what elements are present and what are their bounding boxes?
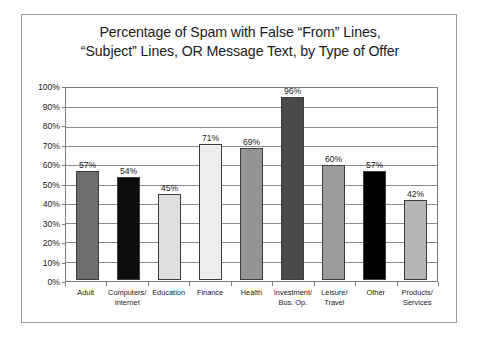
y-axis-tick-mark <box>62 126 65 127</box>
y-axis-tick-label: 30% <box>43 219 60 229</box>
x-axis-tick-mark <box>438 282 439 286</box>
bar[interactable]: 57% <box>76 171 99 280</box>
y-axis-tick-mark <box>62 263 65 264</box>
y-axis-tick-mark <box>62 146 65 147</box>
x-axis-category-label-line-1: Health <box>241 288 262 297</box>
x-axis-category-label: Finance <box>189 288 230 307</box>
x-axis-category-label-line-2: Travel <box>314 298 355 308</box>
x-axis-category-label-line-1: Other <box>367 288 385 297</box>
x-axis-category-label-line-2: Services <box>397 298 438 308</box>
x-axis-category-label-line-1: Computers/ <box>108 288 146 297</box>
x-axis-category-label-line-1: Investment/ <box>274 288 312 297</box>
bar-value-label: 57% <box>366 160 383 170</box>
x-axis-tick-mark <box>231 282 232 286</box>
x-axis-category-label: Adult <box>65 288 106 307</box>
x-axis-category-label: Other <box>355 288 396 307</box>
y-axis-tick-label: 50% <box>43 180 60 190</box>
y-axis-tick-label: 70% <box>43 141 60 151</box>
x-axis-category-label-line-1: Leisure/ <box>321 288 347 297</box>
y-axis-tick-mark <box>62 107 65 108</box>
y-axis-tick-mark <box>62 243 65 244</box>
y-axis-tick-label: 40% <box>43 199 60 209</box>
x-axis-category-label-line-1: Products/ <box>402 288 433 297</box>
x-axis-category-label-line-1: Education <box>152 288 185 297</box>
y-axis-tick-label: 0% <box>48 277 60 287</box>
bar-value-label: 42% <box>407 189 424 199</box>
bar-value-label: 60% <box>325 154 342 164</box>
bar-value-label: 57% <box>79 160 96 170</box>
x-axis-category-label: Health <box>231 288 272 307</box>
bar-slot: 57% <box>354 89 395 280</box>
x-axis-ticks <box>65 282 438 286</box>
x-axis-tick-mark <box>272 282 273 286</box>
bar-value-label: 71% <box>202 133 219 143</box>
slide-frame: Percentage of Spam with False “From” Lin… <box>21 14 457 323</box>
x-axis-category-label-line-1: Adult <box>77 288 94 297</box>
y-axis-tick-mark <box>62 224 65 225</box>
x-axis-category-label: Education <box>148 288 189 307</box>
x-axis-tick-mark <box>189 282 190 286</box>
x-axis-category-label-line-1: Finance <box>197 288 223 297</box>
x-axis-category-label: Investment/Bus. Op. <box>272 288 313 307</box>
y-axis-tick-label: 80% <box>43 121 60 131</box>
plot-area: 57%54%45%71%69%96%60%57%42% <box>65 87 438 282</box>
y-axis-tick-label: 100% <box>38 82 60 92</box>
bar-slot: 45% <box>149 89 190 280</box>
plot-wrap: 57%54%45%71%69%96%60%57%42% 100%90%80%70… <box>65 87 438 282</box>
y-axis-tick-mark <box>62 87 65 88</box>
chart-title-line-1: Percentage of Spam with False “From” Lin… <box>22 23 458 42</box>
chart-title-line-2: “Subject” Lines, OR Message Text, by Typ… <box>22 42 458 61</box>
bar-value-label: 96% <box>284 86 301 96</box>
bar-value-label: 69% <box>243 137 260 147</box>
bar-slot: 60% <box>313 89 354 280</box>
y-axis-tick-label: 10% <box>43 258 60 268</box>
bar[interactable]: 57% <box>363 171 386 280</box>
bar-slot: 96% <box>272 89 313 280</box>
x-axis-tick-mark <box>65 282 66 286</box>
bar-slot: 57% <box>67 89 108 280</box>
bar[interactable]: 60% <box>322 165 345 280</box>
bar-slot: 42% <box>395 89 436 280</box>
y-axis-tick-mark <box>62 204 65 205</box>
x-axis-category-label: Leisure/Travel <box>314 288 355 307</box>
chart-title: Percentage of Spam with False “From” Lin… <box>22 23 458 61</box>
bar[interactable]: 96% <box>281 97 304 280</box>
bar-value-label: 45% <box>161 183 178 193</box>
y-axis-tick-label: 60% <box>43 160 60 170</box>
bar-series: 57%54%45%71%69%96%60%57%42% <box>67 89 436 280</box>
bar-slot: 69% <box>231 89 272 280</box>
bar-slot: 54% <box>108 89 149 280</box>
x-axis-tick-mark <box>397 282 398 286</box>
y-axis-tick-mark <box>62 165 65 166</box>
x-axis-tick-mark <box>314 282 315 286</box>
bar-value-label: 54% <box>120 166 137 176</box>
x-axis-category-label: Products/Services <box>397 288 438 307</box>
bar[interactable]: 69% <box>240 148 263 280</box>
y-axis-tick-label: 90% <box>43 102 60 112</box>
bar-slot: 71% <box>190 89 231 280</box>
x-axis-tick-mark <box>148 282 149 286</box>
x-axis-tick-mark <box>355 282 356 286</box>
y-axis-tick-label: 20% <box>43 238 60 248</box>
y-axis-tick-mark <box>62 185 65 186</box>
x-axis-tick-mark <box>106 282 107 286</box>
bar[interactable]: 71% <box>199 144 222 280</box>
bar[interactable]: 45% <box>158 194 181 280</box>
x-axis-labels: AdultComputers/InternetEducationFinanceH… <box>65 288 438 307</box>
bar[interactable]: 42% <box>404 200 427 280</box>
bar[interactable]: 54% <box>117 177 140 280</box>
x-axis-category-label: Computers/Internet <box>106 288 147 307</box>
x-axis-category-label-line-2: Bus. Op. <box>272 298 313 308</box>
x-axis-category-label-line-2: Internet <box>106 298 147 308</box>
